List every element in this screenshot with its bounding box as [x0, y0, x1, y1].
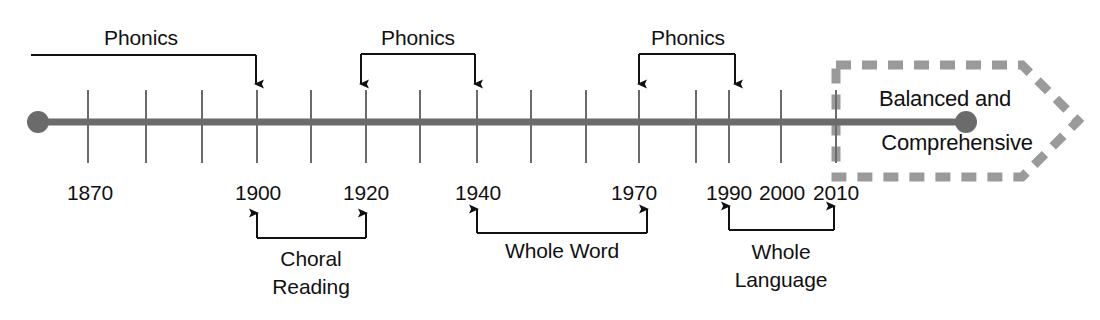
method-label-line: Language: [735, 266, 828, 294]
method-label-line: Whole Word: [505, 240, 619, 261]
phonics-label-2: Phonics: [651, 27, 725, 48]
upper-bracket-layer: [31, 54, 735, 84]
method-label-line: Whole: [735, 238, 828, 266]
year-label-1870: 1870: [67, 182, 113, 203]
axis-start-dot: [27, 111, 49, 133]
lower-bracket-layer: [257, 206, 834, 238]
method-label-2: WholeLanguage: [735, 238, 828, 293]
year-label-1900: 1900: [235, 182, 281, 203]
method-label-line: Choral: [272, 245, 350, 273]
year-label-1920: 1920: [343, 182, 389, 203]
tick-layer: [88, 90, 836, 163]
year-label-1990: 1990: [706, 182, 752, 203]
method-label-line: Reading: [272, 273, 350, 301]
year-label-2000: 2000: [759, 182, 805, 203]
phonics-label-1: Phonics: [381, 27, 455, 48]
phonics-label-0: Phonics: [104, 27, 178, 48]
year-label-2010: 2010: [813, 182, 859, 203]
method-label-1: Whole Word: [505, 240, 619, 261]
method-label-0: ChoralReading: [272, 245, 350, 300]
banner-label-line-2: Comprehensive: [881, 132, 1032, 154]
year-label-1970: 1970: [611, 182, 657, 203]
year-label-1940: 1940: [455, 182, 501, 203]
banner-label-line-1: Balanced and: [879, 88, 1011, 110]
timeline-diagram: 18701900192019401970199020002010 Phonics…: [0, 0, 1100, 320]
